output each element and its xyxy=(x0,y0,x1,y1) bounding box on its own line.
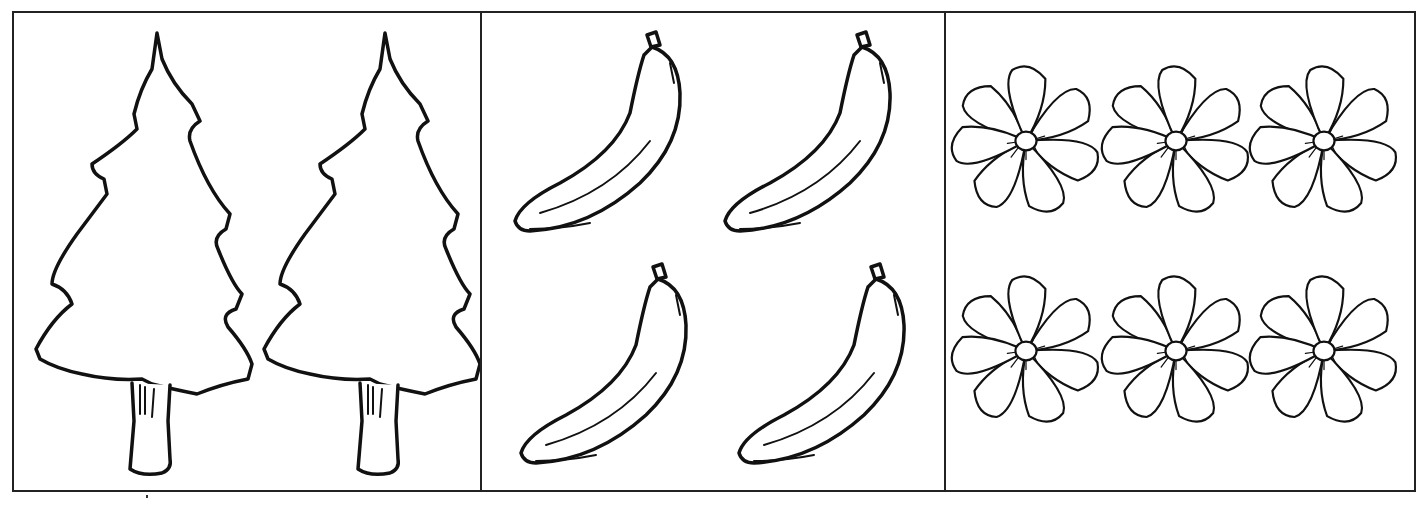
banana-icon xyxy=(516,265,706,465)
flower-icon xyxy=(951,271,1101,431)
flower-icon xyxy=(1101,61,1251,221)
panel-trees xyxy=(14,13,480,490)
flower-icon xyxy=(1101,271,1251,431)
banana-icon xyxy=(734,265,924,465)
banana-icon xyxy=(510,33,700,233)
tree-icon xyxy=(22,29,242,479)
flower-icon xyxy=(1249,271,1399,431)
flower-icon xyxy=(1249,61,1399,221)
counting-worksheet xyxy=(12,11,1416,492)
banana-icon xyxy=(720,33,910,233)
flower-icon xyxy=(951,61,1101,221)
tree-icon xyxy=(250,29,470,479)
panel-flowers xyxy=(944,13,1414,490)
stray-mark xyxy=(146,495,148,498)
panel-bananas xyxy=(480,13,944,490)
